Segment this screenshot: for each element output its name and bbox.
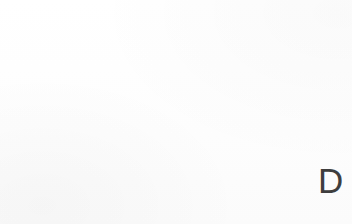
state-NJ[interactable] — [316, 72, 325, 88]
state-AZ[interactable] — [96, 100, 124, 136]
aleutian-speck-3 — [23, 211, 25, 213]
state-OH[interactable] — [260, 78, 280, 106]
state-ME[interactable] — [336, 12, 350, 46]
state-MN[interactable] — [196, 9, 226, 52]
state-ND[interactable] — [158, 8, 196, 34]
state-MT[interactable] — [100, 8, 160, 46]
state-FL[interactable] — [258, 168, 300, 222]
state-IN[interactable] — [246, 78, 262, 106]
state-NE[interactable] — [162, 52, 202, 80]
aleutian-speck-2 — [15, 213, 17, 215]
state-IA[interactable] — [198, 52, 228, 76]
state-TX[interactable] — [136, 116, 214, 200]
long-island-outline — [326, 68, 340, 71]
conterminous-us-group — [38, 8, 350, 222]
state-AL[interactable] — [248, 130, 266, 168]
state-AR[interactable] — [208, 112, 232, 140]
insets-group — [7, 168, 145, 222]
inset-AK-alaska[interactable] — [30, 168, 80, 214]
answer-choice-letter: D — [318, 161, 348, 201]
state-MI-upper-peninsula[interactable] — [230, 32, 268, 42]
state-CO[interactable] — [112, 70, 166, 104]
inset-HI-island-oahu[interactable] — [118, 204, 124, 209]
state-SD[interactable] — [160, 30, 198, 54]
inset-HI-island-maui[interactable] — [128, 209, 135, 214]
aleutian-speck-1 — [7, 211, 9, 213]
state-KS[interactable] — [166, 78, 204, 102]
state-RI[interactable] — [335, 60, 338, 65]
inset-HI-island-kauai[interactable] — [106, 199, 113, 204]
state-CT[interactable] — [326, 60, 335, 66]
state-MD[interactable] — [296, 88, 318, 100]
state-DE[interactable] — [316, 88, 321, 98]
state-MI[interactable] — [246, 44, 266, 82]
map-figure: D — [0, 0, 352, 224]
inset-HI-island-hawaii[interactable] — [136, 215, 145, 222]
state-MA[interactable] — [326, 50, 346, 58]
us-map-svg — [0, 0, 352, 224]
